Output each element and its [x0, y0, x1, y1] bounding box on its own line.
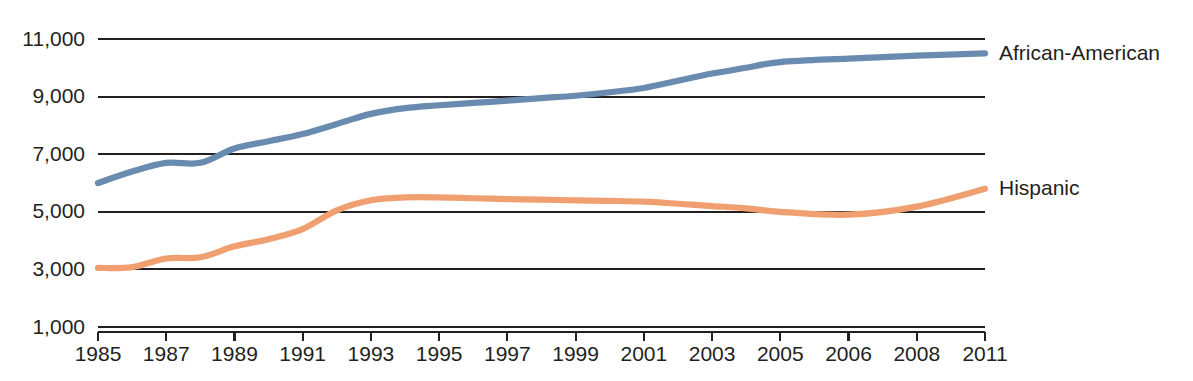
y-axis-label-1000: 1,000 — [32, 315, 85, 338]
x-axis-label-1999: 1999 — [552, 342, 599, 365]
chart-plot-area: 11,0009,0007,0005,0003,0001,000 19851987… — [0, 0, 1193, 381]
x-axis-label-1991: 1991 — [279, 342, 326, 365]
y-axis-label-5000: 5,000 — [32, 199, 85, 222]
x-axis-label-2011: 2011 — [962, 342, 1007, 365]
y-axis-label-11000: 11,000 — [22, 27, 85, 50]
x-axis-label-2008: 2008 — [893, 342, 940, 365]
series-end-labels: African-AmericanHispanic — [999, 41, 1160, 199]
series-line-hispanic — [98, 189, 985, 268]
data-series-lines — [98, 53, 985, 268]
y-axis-label-3000: 3,000 — [32, 257, 85, 280]
x-axis-label-1993: 1993 — [348, 342, 395, 365]
y-axis-label-9000: 9,000 — [32, 84, 85, 107]
x-axis-label-1997: 1997 — [484, 342, 531, 365]
x-axis-label-1989: 1989 — [211, 342, 258, 365]
x-axis-tick-labels: 1985198719891991199319951997199920012003… — [75, 342, 1008, 365]
y-axis-label-7000: 7,000 — [32, 142, 85, 165]
gridlines — [98, 39, 985, 327]
x-axis-label-2001: 2001 — [620, 342, 667, 365]
line-chart-figure: 11,0009,0007,0005,0003,0001,000 19851987… — [0, 0, 1193, 381]
x-axis-label-1985: 1985 — [75, 342, 122, 365]
x-axis-label-2005: 2005 — [757, 342, 804, 365]
x-axis-label-2006: 2006 — [825, 342, 872, 365]
y-axis-tick-labels: 11,0009,0007,0005,0003,0001,000 — [22, 27, 85, 338]
series-line-african-american — [98, 53, 985, 183]
series-label-african-american: African-American — [999, 41, 1160, 64]
x-axis-label-2003: 2003 — [689, 342, 736, 365]
x-axis-label-1987: 1987 — [143, 342, 190, 365]
x-axis — [98, 332, 985, 341]
x-axis-label-1995: 1995 — [416, 342, 463, 365]
series-label-hispanic: Hispanic — [999, 176, 1080, 199]
